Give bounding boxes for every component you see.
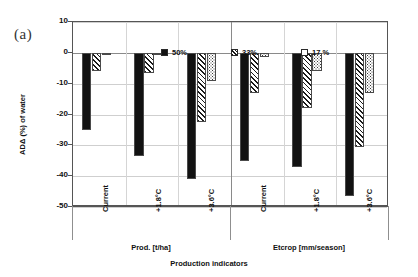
legend: 50% 33% 17 % <box>161 48 373 57</box>
group-separator <box>230 206 231 240</box>
legend-swatch-33-icon <box>231 49 238 56</box>
x-axis-title: Production indicators <box>0 259 418 268</box>
bar-50-cat0 <box>82 53 92 130</box>
gridline-x-1 <box>126 22 127 205</box>
x-tick-label-5: +3.6°C <box>365 152 374 212</box>
legend-swatch-17-icon <box>301 49 308 56</box>
bar-50-cat1 <box>134 53 144 156</box>
bar-50-cat2 <box>187 53 197 179</box>
group-separator-right <box>388 206 389 240</box>
bar-33-cat4 <box>302 53 312 109</box>
gridline-y-10 <box>73 22 387 23</box>
group-label-1: Etcrop [mm/season] <box>249 243 369 252</box>
x-tick-label-3: Current <box>259 152 268 212</box>
legend-label-17: 17 % <box>312 48 329 57</box>
y-tick-label--20: -20 <box>40 109 68 118</box>
gridline-y--20 <box>73 115 387 116</box>
legend-swatch-50-icon <box>161 49 168 56</box>
y-tick-label--40: -40 <box>40 170 68 179</box>
y-tick-label--50: -50 <box>40 201 68 210</box>
y-tick-label-10: 10 <box>40 16 68 25</box>
x-tick-label-4: +1.8°C <box>312 152 321 212</box>
x-tick-label-2: +3.6°C <box>207 152 216 212</box>
legend-item-50: 50% <box>161 48 187 57</box>
bar-33-cat2 <box>197 53 207 122</box>
legend-label-50: 50% <box>172 48 187 57</box>
bar-17-cat0 <box>102 53 112 55</box>
bar-33-cat0 <box>92 53 102 72</box>
gridline-y--10 <box>73 84 387 85</box>
panel-label: (a) <box>14 26 32 43</box>
bar-33-cat5 <box>355 53 365 147</box>
x-tick-label-1: +1.8°C <box>154 152 163 212</box>
plot-area: 50% 33% 17 % <box>72 21 388 206</box>
legend-label-33: 33% <box>242 48 257 57</box>
y-tick-label--30: -30 <box>40 139 68 148</box>
group-separator-left <box>72 206 73 240</box>
chart-figure: (a) ADΔ (%) of water 100-10-20-30-40-50 … <box>0 0 418 277</box>
bar-33-cat3 <box>250 53 260 93</box>
bar-17-cat5 <box>365 53 375 93</box>
gridline-y--30 <box>73 145 387 146</box>
y-tick-label--10: -10 <box>40 78 68 87</box>
gridline-y--40 <box>73 176 387 177</box>
x-tick-label-0: Current <box>101 152 110 212</box>
bar-50-cat4 <box>292 53 302 167</box>
bar-50-cat5 <box>345 53 355 196</box>
legend-item-17: 17 % <box>301 48 329 57</box>
group-label-0: Prod. [t/ha] <box>91 243 211 252</box>
y-tick-label-0: 0 <box>40 47 68 56</box>
bar-50-cat3 <box>240 53 250 161</box>
legend-item-33: 33% <box>231 48 257 57</box>
bar-33-cat1 <box>144 53 154 73</box>
y-axis-title: ADΔ (%) of water <box>18 65 27 185</box>
